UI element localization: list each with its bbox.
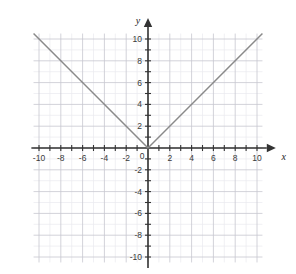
x-tick-label: -2: [122, 153, 130, 163]
graph-screenshot: -10-8-6-4-2246810 108642-2-4-6-8-10 0 x …: [0, 0, 296, 274]
y-tick-label: -2: [134, 165, 142, 175]
origin-label: 0: [140, 151, 145, 161]
y-tick-label: 8: [137, 56, 142, 66]
y-tick-label: -4: [134, 187, 142, 197]
coordinate-plane-graph: -10-8-6-4-2246810 108642-2-4-6-8-10 0 x …: [0, 0, 296, 274]
x-tick-label: 6: [211, 153, 216, 163]
y-tick-label: -10: [130, 252, 143, 262]
y-tick-label: 6: [137, 78, 142, 88]
y-tick-label: -6: [134, 208, 142, 218]
x-tick-label: -8: [57, 153, 65, 163]
y-tick-label: -8: [134, 230, 142, 240]
x-tick-label: -10: [33, 153, 46, 163]
x-tick-label: -4: [101, 153, 109, 163]
y-tick-label: 4: [137, 99, 142, 109]
x-tick-label: -6: [79, 153, 87, 163]
y-axis-label: y: [135, 15, 141, 26]
x-tick-label: 10: [252, 153, 262, 163]
y-tick-label: 2: [137, 121, 142, 131]
x-tick-label: 2: [167, 153, 172, 163]
y-tick-label: 10: [133, 34, 143, 44]
x-tick-label: 4: [189, 153, 194, 163]
x-tick-label: 8: [233, 153, 238, 163]
x-axis-label: x: [281, 151, 287, 162]
